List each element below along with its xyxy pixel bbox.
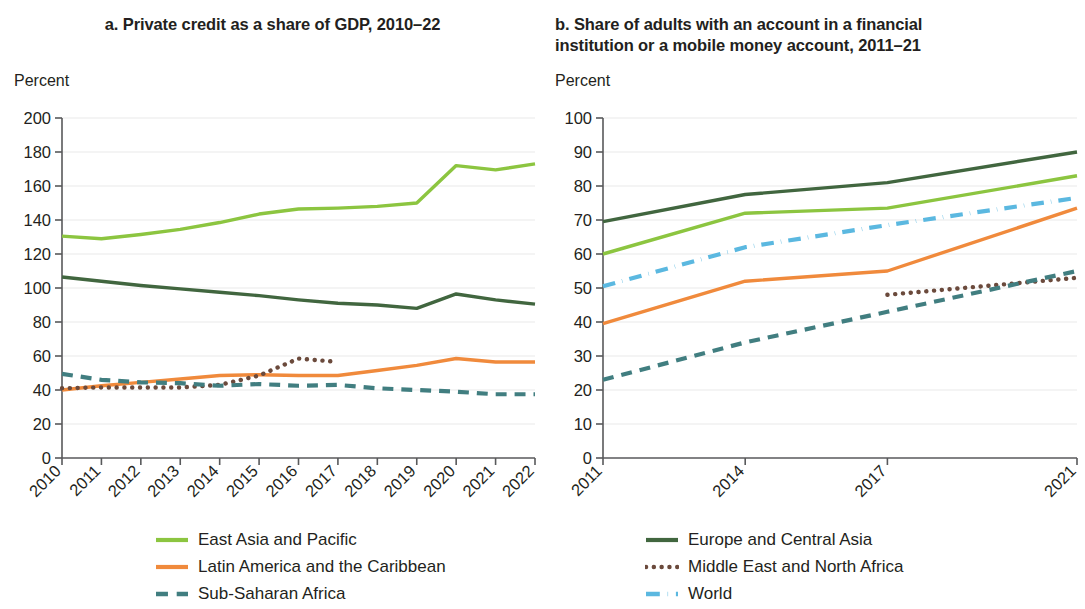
legend-label: Latin America and the Caribbean — [198, 558, 446, 575]
svg-text:2013: 2013 — [144, 461, 183, 500]
svg-text:40: 40 — [33, 381, 51, 399]
panel-b-title: b. Share of adults with an account in a … — [545, 0, 1085, 56]
legend-label: Middle East and North Africa — [688, 558, 903, 575]
legend-label: World — [688, 585, 732, 602]
svg-text:2017: 2017 — [301, 461, 340, 500]
svg-text:2011: 2011 — [66, 461, 104, 499]
panel-a-y-axis-unit: Percent — [14, 72, 69, 90]
svg-text:2017: 2017 — [851, 461, 890, 500]
svg-text:2021: 2021 — [1040, 461, 1079, 500]
panel-a-plot: 0204060801001201401601802002010201120122… — [0, 100, 545, 520]
svg-text:50: 50 — [574, 279, 592, 297]
svg-text:60: 60 — [33, 347, 51, 365]
legend-item: Sub-Saharan Africa — [155, 585, 645, 602]
legend-swatch-icon — [155, 533, 189, 547]
svg-text:200: 200 — [23, 109, 51, 127]
svg-text:30: 30 — [574, 347, 592, 365]
svg-text:2010: 2010 — [25, 461, 64, 500]
svg-text:2022: 2022 — [498, 461, 537, 500]
legend-item: Middle East and North Africa — [645, 558, 1085, 575]
svg-text:2012: 2012 — [104, 461, 143, 500]
svg-text:10: 10 — [574, 415, 592, 433]
svg-text:60: 60 — [574, 245, 592, 263]
panel-b-y-axis-unit: Percent — [555, 72, 610, 90]
legend-item: East Asia and Pacific — [155, 531, 645, 548]
svg-text:120: 120 — [23, 245, 51, 263]
svg-text:2019: 2019 — [380, 461, 419, 500]
legend-swatch-icon — [155, 587, 189, 601]
panel-b: b. Share of adults with an account in a … — [545, 0, 1085, 520]
svg-text:2011: 2011 — [567, 461, 605, 499]
panel-a: a. Private credit as a share of GDP, 201… — [0, 0, 545, 520]
chart-legend: East Asia and PacificEurope and Central … — [0, 520, 1085, 609]
panel-b-plot: 01020304050607080901002011201420172021 — [545, 100, 1085, 520]
svg-text:2021: 2021 — [459, 461, 498, 500]
svg-text:140: 140 — [23, 211, 51, 229]
svg-text:2015: 2015 — [223, 461, 262, 500]
legend-swatch-icon — [645, 560, 679, 574]
legend-label: Sub-Saharan Africa — [198, 585, 345, 602]
legend-label: Europe and Central Asia — [688, 531, 872, 548]
svg-text:2014: 2014 — [709, 461, 748, 500]
legend-swatch-icon — [155, 560, 189, 574]
svg-text:20: 20 — [574, 381, 592, 399]
legend-label: East Asia and Pacific — [198, 531, 357, 548]
svg-text:20: 20 — [33, 415, 51, 433]
svg-text:40: 40 — [574, 313, 592, 331]
svg-text:70: 70 — [574, 211, 592, 229]
svg-text:90: 90 — [574, 143, 592, 161]
legend-swatch-icon — [645, 587, 679, 601]
legend-item: Europe and Central Asia — [645, 531, 1085, 548]
panel-a-title: a. Private credit as a share of GDP, 201… — [0, 0, 545, 35]
svg-text:100: 100 — [564, 109, 592, 127]
legend-item: World — [645, 585, 1085, 602]
svg-text:80: 80 — [33, 313, 51, 331]
legend-swatch-icon — [645, 533, 679, 547]
legend-item: Latin America and the Caribbean — [155, 558, 645, 575]
svg-text:2020: 2020 — [420, 461, 459, 500]
svg-text:100: 100 — [23, 279, 51, 297]
svg-text:2014: 2014 — [183, 461, 222, 500]
svg-text:160: 160 — [23, 177, 51, 195]
two-panel-line-chart-figure: a. Private credit as a share of GDP, 201… — [0, 0, 1085, 609]
svg-text:2018: 2018 — [341, 461, 380, 500]
svg-text:2016: 2016 — [262, 461, 301, 500]
svg-text:180: 180 — [23, 143, 51, 161]
svg-text:80: 80 — [574, 177, 592, 195]
